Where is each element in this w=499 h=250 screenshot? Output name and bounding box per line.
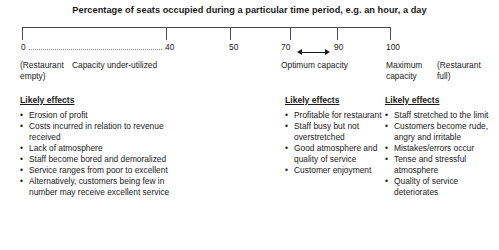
effects-list: •Profitable for restaurant•Staff busy bu…: [285, 110, 385, 176]
effects-heading: Likely effects: [385, 95, 499, 105]
bullet-icon: •: [20, 121, 23, 132]
axis-tick-40: [166, 27, 167, 40]
list-item-label: Erosion of profit: [29, 110, 88, 120]
caption-optimum-capacity: Optimum capacity: [281, 60, 348, 71]
caption-restaurant-full-line1: (Restaurant: [437, 60, 481, 70]
axis-label-0: 0: [21, 42, 26, 52]
list-item-label: Profitable for restaurant: [294, 110, 382, 120]
axis-label-90: 90: [334, 42, 343, 52]
list-item: •Alternatively, customers being few in n…: [20, 176, 188, 198]
axis-tick-90: [337, 27, 338, 40]
bullet-icon: •: [385, 143, 388, 154]
bullet-icon: •: [385, 110, 388, 121]
list-item-label: Good atmosphere and quality of service: [294, 143, 377, 164]
list-item-label: Customers become rude, angry and irritab…: [394, 121, 488, 142]
axis-tick-50: [230, 27, 231, 40]
list-item-label: Staff stretched to the limit: [394, 110, 488, 120]
axis-label-70: 70: [281, 42, 290, 52]
list-item-label: Service ranges from poor to excellent: [29, 165, 168, 175]
bullet-icon: •: [20, 165, 23, 176]
dotted-range-line-icon: [29, 49, 162, 51]
caption-restaurant-full: (Restaurant full): [437, 60, 481, 81]
list-item: •Customers become rude, angry and irrita…: [385, 121, 499, 143]
caption-capacity-under-utilized: Capacity under-utilized: [72, 60, 157, 71]
capacity-scale: 0 40 50 70 90 100 (Restaurant empty) Cap…: [0, 27, 499, 85]
caption-restaurant-full-line2: full): [437, 71, 451, 81]
list-item-label: Lack of atmosphere: [29, 143, 103, 153]
bullet-icon: •: [20, 143, 23, 154]
list-item-label: Tense and stressful atmosphere: [394, 154, 466, 175]
list-item-label: Alternatively, customers being few in nu…: [29, 176, 169, 197]
list-item: •Tense and stressful atmosphere: [385, 154, 499, 176]
bullet-icon: •: [385, 154, 388, 165]
axis-line: [22, 27, 390, 28]
bullet-icon: •: [20, 110, 23, 121]
caption-maximum-capacity-line2: capacity: [386, 71, 417, 81]
caption-maximum-capacity-line1: Maximum: [386, 60, 422, 70]
axis-label-50: 50: [229, 42, 238, 52]
list-item: •Profitable for restaurant: [285, 110, 385, 121]
list-item: •Customer enjoyment: [285, 165, 385, 176]
list-item: •Staff stretched to the limit: [385, 110, 499, 121]
list-item-label: Costs incurred in relation to revenue re…: [29, 121, 164, 142]
effects-heading: Likely effects: [20, 95, 188, 105]
effects-list: •Erosion of profit•Costs incurred in rel…: [20, 110, 188, 198]
caption-restaurant-empty: (Restaurant empty): [20, 60, 64, 81]
caption-restaurant-empty-line2: empty): [20, 71, 46, 81]
list-item: •Lack of atmosphere: [20, 143, 188, 154]
list-item: •Staff busy but not overstretched: [285, 121, 385, 143]
effects-column-under-utilized: Likely effects •Erosion of profit•Costs …: [20, 95, 188, 198]
bullet-icon: •: [385, 121, 388, 132]
list-item: •Service ranges from poor to excellent: [20, 165, 188, 176]
list-item-label: Staff become bored and demoralized: [29, 154, 166, 164]
effects-list: •Staff stretched to the limit•Customers …: [385, 110, 499, 198]
list-item-label: Staff busy but not overstretched: [294, 121, 359, 142]
double-headed-arrow-icon: [297, 49, 330, 56]
effects-column-optimum: Likely effects •Profitable for restauran…: [285, 95, 385, 176]
bullet-icon: •: [285, 165, 288, 176]
list-item-label: Mistakes/errors occur: [394, 143, 474, 153]
list-item: •Costs incurred in relation to revenue r…: [20, 121, 188, 143]
page-title: Percentage of seats occupied during a pa…: [0, 5, 499, 15]
list-item-label: Customer enjoyment: [294, 165, 371, 175]
effects-column-maximum: Likely effects •Staff stretched to the l…: [385, 95, 499, 198]
axis-tick-0: [22, 27, 23, 40]
bullet-icon: •: [285, 121, 288, 132]
caption-maximum-capacity: Maximum capacity: [386, 60, 422, 81]
list-item: •Quality of service deteriorates: [385, 176, 499, 198]
bullet-icon: •: [20, 154, 23, 165]
list-item: •Mistakes/errors occur: [385, 143, 499, 154]
axis-tick-70: [290, 27, 291, 40]
axis-label-40: 40: [165, 42, 174, 52]
caption-restaurant-empty-line1: (Restaurant: [20, 60, 64, 70]
bullet-icon: •: [285, 110, 288, 121]
axis-tick-100: [390, 27, 391, 40]
list-item: •Erosion of profit: [20, 110, 188, 121]
list-item: •Staff become bored and demoralized: [20, 154, 188, 165]
axis-label-100: 100: [386, 42, 400, 52]
bullet-icon: •: [20, 176, 23, 187]
bullet-icon: •: [285, 143, 288, 154]
list-item-label: Quality of service deteriorates: [394, 176, 458, 197]
list-item: •Good atmosphere and quality of service: [285, 143, 385, 165]
effects-heading: Likely effects: [285, 95, 385, 105]
bullet-icon: •: [385, 176, 388, 187]
